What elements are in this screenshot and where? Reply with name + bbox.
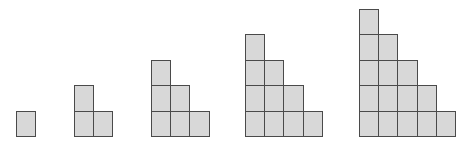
square-cell <box>170 111 190 137</box>
square-cell <box>378 111 398 137</box>
square-cell <box>359 60 379 86</box>
square-cell <box>303 111 323 137</box>
square-cell <box>359 9 379 35</box>
square-cell <box>359 111 379 137</box>
staircase-figure-3 <box>151 60 209 136</box>
square-cell <box>151 111 171 137</box>
square-cell <box>378 60 398 86</box>
square-cell <box>151 60 171 86</box>
square-cell <box>378 34 398 60</box>
square-cell <box>16 111 36 137</box>
square-cell <box>264 85 284 111</box>
square-cell <box>283 85 303 111</box>
square-cell <box>417 111 437 137</box>
square-cell <box>189 111 209 137</box>
square-cell <box>74 85 94 111</box>
staircase-figure-4 <box>245 34 322 136</box>
square-cell <box>245 111 265 137</box>
square-cell <box>74 111 94 137</box>
square-cell <box>397 111 417 137</box>
square-cell <box>245 85 265 111</box>
square-cell <box>93 111 113 137</box>
square-cell <box>397 85 417 111</box>
square-cell <box>245 34 265 60</box>
square-cell <box>264 60 284 86</box>
staircase-figure-5 <box>359 9 455 136</box>
square-cell <box>283 111 303 137</box>
square-cell <box>378 85 398 111</box>
staircase-figure-2 <box>74 85 112 136</box>
square-cell <box>417 85 437 111</box>
square-cell <box>151 85 171 111</box>
square-cell <box>397 60 417 86</box>
square-cell <box>359 85 379 111</box>
square-cell <box>264 111 284 137</box>
square-cell <box>170 85 190 111</box>
staircase-figure-1 <box>16 111 35 136</box>
square-cell <box>245 60 265 86</box>
square-cell <box>359 34 379 60</box>
square-cell <box>436 111 456 137</box>
